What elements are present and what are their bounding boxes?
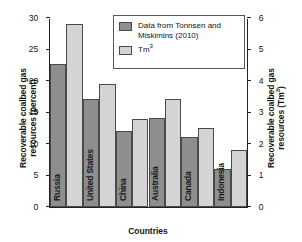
legend-label-tm3-sup: 3 <box>150 43 153 49</box>
y-tick-right <box>247 143 251 144</box>
bar-category-label: United States <box>85 149 95 201</box>
bar-category-label: Australia <box>150 166 160 201</box>
legend-label-percent-line1: Data from Tonnsen and <box>138 21 221 30</box>
x-axis-title: Countries <box>48 226 248 236</box>
y-axis-right-title-line2: resources (Tm3) <box>276 43 286 193</box>
y-tick-label-right: 4 <box>257 77 264 86</box>
y-tick-label-left: 20 <box>29 77 40 86</box>
legend-label-tm3: Tm3 <box>138 45 153 55</box>
bar-tm3 <box>198 128 214 207</box>
chart-figure: Recoverable coalbed gas resources (perce… <box>0 0 302 242</box>
y-tick-label-right: 3 <box>257 108 264 117</box>
y-axis-left-title-line1: Recoverable coalbed gas <box>18 68 28 168</box>
y-axis-right-title-tail: ) <box>276 86 286 89</box>
y-axis-right-title-sup: 3 <box>275 89 281 92</box>
y-tick-right <box>247 80 251 81</box>
y-tick-right <box>247 206 251 207</box>
y-tick-left <box>46 17 50 18</box>
y-tick-label-right: 0 <box>257 203 264 212</box>
legend-item-percent: Data from Tonnsen and Miskimins (2010) <box>119 21 239 40</box>
bar-category-label: Russia <box>52 174 62 201</box>
chart-legend: Data from Tonnsen and Miskimins (2010) T… <box>113 15 245 69</box>
y-tick-right <box>247 49 251 50</box>
y-tick-right <box>247 17 251 18</box>
bar-tm3 <box>165 99 181 207</box>
bar-category-label: Indonesia <box>216 163 226 201</box>
y-tick-label-left: 0 <box>33 203 40 212</box>
legend-label-percent-line2: Miskimins (2010) <box>138 31 198 40</box>
bar-group: Russia <box>50 19 83 207</box>
y-tick-label-right: 1 <box>257 171 264 180</box>
legend-label-percent: Data from Tonnsen and Miskimins (2010) <box>138 21 221 40</box>
bar-tm3 <box>66 24 82 207</box>
y-tick-label-right: 6 <box>257 14 264 23</box>
y-tick-right <box>247 175 251 176</box>
y-tick-label-right: 5 <box>257 45 264 54</box>
bar-tm3 <box>231 150 247 207</box>
y-tick-label-right: 2 <box>257 140 264 149</box>
y-tick-label-left: 30 <box>29 14 40 23</box>
bar-category-label: China <box>118 178 128 201</box>
legend-swatch-percent <box>119 22 132 31</box>
bar-tm3 <box>99 84 115 207</box>
bar-tm3 <box>132 119 148 207</box>
y-axis-right-title-line2-text: resources (Tm <box>276 92 286 149</box>
y-tick-label-left: 25 <box>29 45 40 54</box>
y-tick-label-left: 10 <box>29 140 40 149</box>
bar-category-label: Canada <box>183 171 193 201</box>
y-axis-right-title-line1: Recoverable coalbed gas <box>266 68 276 168</box>
y-tick-right <box>247 112 251 113</box>
bar-group: United States <box>83 19 116 207</box>
legend-swatch-tm3 <box>119 46 132 55</box>
legend-item-tm3: Tm3 <box>119 45 239 55</box>
y-tick-label-left: 15 <box>29 108 40 117</box>
y-axis-right-title: Recoverable coalbed gas resources (Tm3) <box>266 43 286 193</box>
y-tick-label-left: 5 <box>33 171 40 180</box>
legend-label-tm3-base: Tm <box>138 45 150 54</box>
